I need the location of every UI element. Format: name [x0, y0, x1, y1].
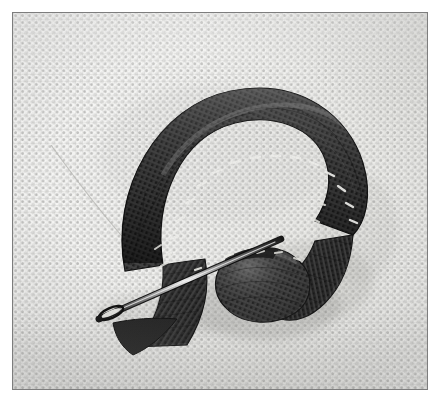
embroidery-subject — [13, 13, 427, 389]
photograph-frame — [12, 12, 428, 390]
caption-area — [0, 392, 448, 411]
ribbon-coil — [208, 238, 323, 333]
